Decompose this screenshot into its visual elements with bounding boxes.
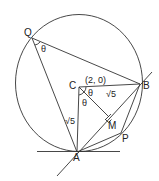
- label-theta-C-lower: θ: [82, 98, 87, 108]
- geometry-diagram: Q B C A M P (2, 0) θ θ θ √5 √5: [0, 0, 159, 181]
- label-length-CA: √5: [65, 116, 75, 126]
- label-B: B: [143, 80, 150, 91]
- label-theta-C-upper: θ: [88, 88, 93, 98]
- label-M: M: [108, 120, 116, 131]
- angle-arc-Q: [35, 42, 40, 45]
- label-P: P: [122, 133, 129, 144]
- circle: [16, 15, 143, 152]
- label-theta-Q: θ: [41, 44, 46, 54]
- label-C: C: [69, 80, 76, 91]
- radius-CA: [77, 87, 79, 152]
- label-A: A: [73, 152, 80, 163]
- chord-PB: [121, 84, 140, 133]
- angle-arc-C-lower: [79, 92, 84, 95]
- label-Q: Q: [24, 27, 32, 38]
- chord-AP: [77, 133, 121, 152]
- label-length-CB: √5: [106, 89, 116, 99]
- chord-QA: [32, 38, 77, 152]
- label-C-coordinate: (2, 0): [85, 75, 106, 85]
- angle-arc-C-upper: [84, 87, 86, 92]
